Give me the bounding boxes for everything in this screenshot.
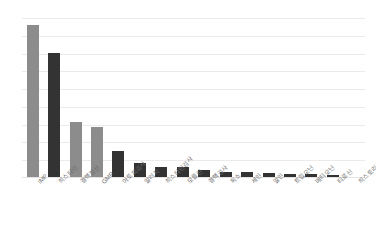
x-tick-label: IMP [36,180,41,185]
bar[interactable] [27,25,39,178]
x-tick-label: 알러지 [143,180,148,185]
x-tick-label: 히스타민 [57,180,62,185]
x-tick-label: 독소 [229,180,234,185]
bars-layer [22,18,365,178]
bar[interactable] [48,53,60,178]
x-tick-label: 결핵항산 [79,180,84,185]
bar-chart: IMP히스타민결핵항산GMP아토피검사알러지히스타민검사모를린결핵검사독소세린알… [0,0,376,230]
x-tick-label: 히스타민검사 [164,180,169,185]
x-axis-tick-labels: IMP히스타민결핵항산GMP아토피검사알러지히스타민검사모를린결핵검사독소세린알… [22,180,365,230]
x-tick-label: 세린 [250,180,255,185]
x-tick-label: 트립오닌 [293,180,298,185]
x-tick-label: 알린 [272,180,277,185]
x-tick-label: 결핵검사 [207,180,212,185]
x-tick-label: 메티오닌 [314,180,319,185]
x-tick-label: 히스토리신 [357,180,362,185]
plot-area [22,18,365,178]
x-tick-label: 아토피검사 [121,180,126,185]
x-tick-label: GMP [100,180,105,185]
x-tick-label: 티로신 [336,180,341,185]
x-tick-label: 모를린 [186,180,191,185]
